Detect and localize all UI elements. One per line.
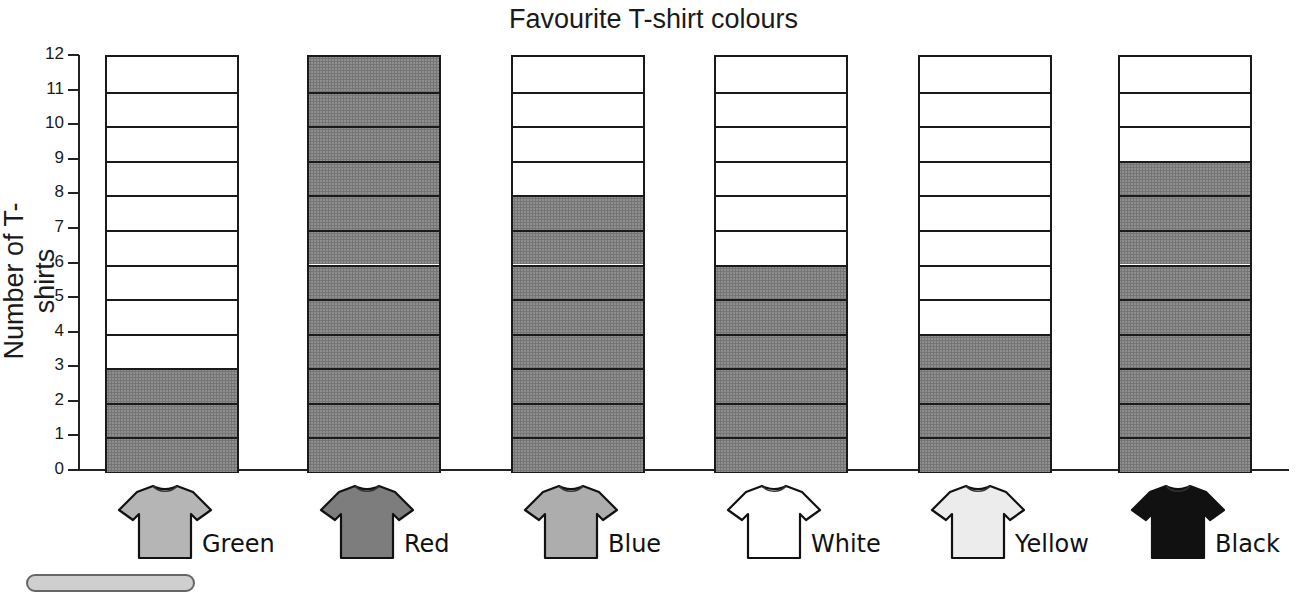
bar-cell-filled: [309, 334, 439, 369]
y-tick-label: 0: [30, 460, 64, 478]
t-shirt-icon: [115, 480, 215, 566]
bar-cell-filled: [1120, 437, 1250, 472]
t-shirt-icon: [1128, 480, 1228, 566]
bar-cell-empty: [920, 265, 1050, 300]
bar-cell-filled: [513, 437, 643, 472]
bar-cell-filled: [309, 195, 439, 230]
bar-yellow: [918, 55, 1052, 473]
bar-cell-filled: [716, 437, 846, 472]
bar-cell-filled: [716, 334, 846, 369]
bar-cell-filled: [920, 368, 1050, 403]
bar-cell-filled: [716, 299, 846, 334]
y-tick-label: 12: [30, 45, 64, 63]
category-yellow: Yellow: [920, 478, 1120, 568]
bar-cell-filled: [716, 403, 846, 438]
y-tick: [68, 158, 79, 160]
bar-cell-empty: [716, 126, 846, 161]
bar-cell-filled: [1120, 299, 1250, 334]
bar-cell-filled: [107, 437, 237, 472]
bar-cell-filled: [920, 403, 1050, 438]
y-tick-label: 8: [30, 183, 64, 201]
bar-cell-filled: [309, 437, 439, 472]
bar-cell-empty: [107, 57, 237, 92]
bar-cell-empty: [513, 161, 643, 196]
y-tick-label: 10: [30, 114, 64, 132]
bar-cell-filled: [309, 126, 439, 161]
bar-cell-empty: [107, 195, 237, 230]
y-tick-label: 5: [30, 287, 64, 305]
bar-green: [105, 55, 239, 473]
bar-white: [714, 55, 848, 473]
category-label: Blue: [608, 530, 661, 558]
y-tick-label: 7: [30, 218, 64, 236]
bar-cell-empty: [920, 161, 1050, 196]
y-tick-label: 3: [30, 356, 64, 374]
partial-button[interactable]: [26, 574, 195, 592]
bar-cell-empty: [920, 299, 1050, 334]
category-label: Black: [1215, 530, 1280, 558]
bar-cell-empty: [107, 299, 237, 334]
y-tick: [68, 89, 79, 91]
y-tick: [68, 331, 79, 333]
bar-cell-empty: [107, 92, 237, 127]
bar-cell-filled: [1120, 161, 1250, 196]
category-label: Yellow: [1015, 530, 1089, 558]
y-tick-label: 6: [30, 253, 64, 271]
bar-cell-filled: [513, 230, 643, 265]
y-tick: [68, 296, 79, 298]
x-axis: [78, 469, 1289, 471]
category-black: Black: [1120, 478, 1307, 568]
bar-cell-filled: [716, 368, 846, 403]
bar-cell-filled: [920, 334, 1050, 369]
bar-cell-empty: [1120, 57, 1250, 92]
bar-cell-filled: [513, 265, 643, 300]
category-label: White: [811, 530, 881, 558]
category-green: Green: [107, 478, 307, 568]
bar-black: [1118, 55, 1252, 473]
bar-cell-filled: [716, 265, 846, 300]
bar-cell-empty: [716, 57, 846, 92]
t-shirt-icon: [724, 480, 824, 566]
bar-cell-empty: [920, 195, 1050, 230]
y-tick-label: 9: [30, 149, 64, 167]
bar-cell-filled: [309, 265, 439, 300]
bar-cell-filled: [309, 92, 439, 127]
bar-cell-filled: [107, 403, 237, 438]
bar-cell-filled: [1120, 334, 1250, 369]
bar-cell-empty: [107, 230, 237, 265]
bar-cell-empty: [920, 230, 1050, 265]
y-tick: [68, 365, 79, 367]
y-tick: [68, 54, 79, 56]
y-tick-label: 2: [30, 391, 64, 409]
bar-cell-filled: [920, 437, 1050, 472]
bar-cell-filled: [1120, 368, 1250, 403]
bar-cell-filled: [309, 299, 439, 334]
category-red: Red: [309, 478, 509, 568]
bar-cell-empty: [716, 230, 846, 265]
bar-cell-filled: [107, 368, 237, 403]
bar-cell-empty: [920, 92, 1050, 127]
bar-cell-empty: [513, 57, 643, 92]
bar-cell-filled: [513, 403, 643, 438]
bar-cell-filled: [513, 299, 643, 334]
y-tick: [68, 227, 79, 229]
bar-cell-empty: [1120, 92, 1250, 127]
bar-red: [307, 55, 441, 473]
chart-title: Favourite T-shirt colours: [0, 4, 1307, 35]
bar-cell-filled: [1120, 265, 1250, 300]
bar-cell-filled: [513, 368, 643, 403]
bar-cell-filled: [513, 195, 643, 230]
bar-cell-filled: [309, 57, 439, 92]
bar-cell-empty: [107, 161, 237, 196]
bar-cell-filled: [309, 403, 439, 438]
y-tick-label: 4: [30, 322, 64, 340]
t-shirt-icon: [928, 480, 1028, 566]
bar-cell-empty: [716, 92, 846, 127]
bar-cell-filled: [309, 161, 439, 196]
category-label: Green: [202, 530, 275, 558]
y-tick: [68, 192, 79, 194]
bar-cell-empty: [716, 161, 846, 196]
t-shirt-icon: [521, 480, 621, 566]
y-tick: [68, 434, 79, 436]
y-tick: [68, 400, 79, 402]
